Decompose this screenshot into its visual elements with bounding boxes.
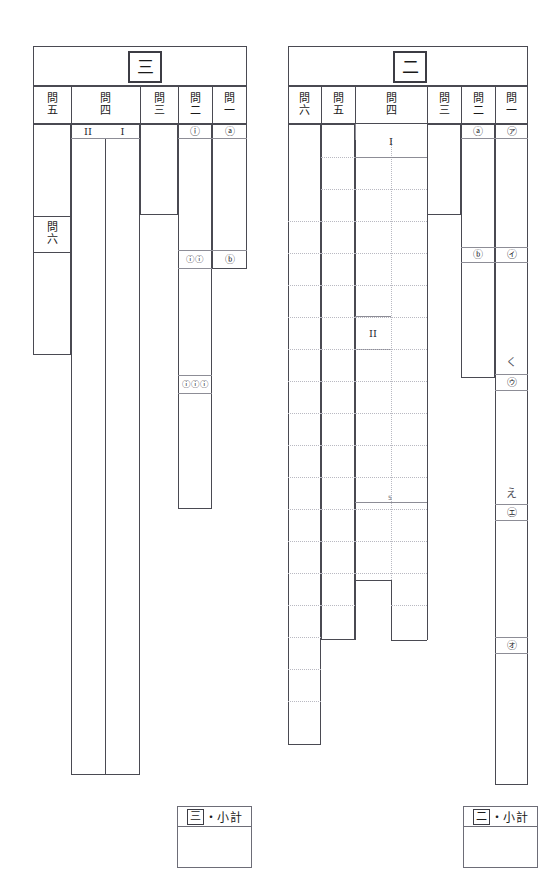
panel-ni-q4-rule-I	[355, 157, 427, 158]
panel-ni-q6-grid-15	[288, 669, 321, 670]
panel-ni-q5-grid-9	[321, 413, 355, 414]
panel-san-subtotal-label: ・小計	[205, 808, 243, 825]
panel-san-roman-II: II	[71, 125, 105, 138]
panel-ni-q6-grid-9	[288, 477, 321, 478]
panel-san-marker-q2-iii: ⓘⓘⓘ	[178, 376, 212, 393]
panel-ni-roman-I: I	[355, 129, 427, 153]
panel-ni-q5-grid-13	[321, 541, 355, 542]
panel-ni-colhead-q6: 問 六	[288, 88, 321, 122]
panel-ni-q4-grid-10	[355, 477, 427, 478]
panel-ni-q6-grid-5	[288, 349, 321, 350]
colhead-char-2: 六	[47, 234, 58, 246]
panel-san-marker-q2-i: ⓘ	[178, 125, 212, 138]
panel-san-marker-q1-a: ⓐ	[212, 125, 247, 138]
panel-ni-q6-grid-6	[288, 381, 321, 382]
panel-ni-q6-grid-12	[288, 573, 321, 574]
panel-ni-subtotal-label: ・小計	[491, 808, 529, 825]
panel-ni-q1-body[interactable]	[495, 124, 528, 785]
panel-ni-colhead-q5: 問 五	[321, 88, 355, 122]
panel-ni-marker-q2-a: ⓐ	[461, 125, 495, 138]
panel-san-roman-I: I	[105, 125, 140, 138]
panel-ni-marker-q2-b: ⓑ	[461, 248, 495, 262]
panel-ni-subtotal-caption: 二 ・小計	[464, 807, 537, 827]
panel-ni-q4-grid-1	[355, 189, 427, 190]
panel-ni-section-label: 二	[393, 51, 427, 83]
panel-san-q1-rule-a	[212, 138, 247, 139]
panel-ni-handwriting-ku: く	[495, 352, 528, 370]
panel-ni-q4-grid-12	[355, 541, 427, 542]
panel-ni-q6-grid-13	[288, 605, 321, 606]
answer-sheet: 三 問 五 問 四 問 三 問 二 問 一 問 六 II I	[0, 0, 559, 883]
panel-san-colhead-q4: 問 四	[71, 88, 140, 122]
panel-ni-q6-grid-3	[288, 285, 321, 286]
panel-ni-q4-left-edge	[355, 124, 356, 640]
panel-san-subtotal-caption: 三 ・小計	[178, 807, 251, 827]
panel-ni-handwriting-e: え	[495, 483, 528, 501]
panel-ni-q5-grid-15	[321, 605, 355, 606]
panel-ni-marker-q1-e: ㋓	[495, 505, 528, 520]
colhead-char-2: 二	[473, 105, 484, 117]
colhead-char-2: 四	[100, 105, 111, 117]
panel-ni-q4-grid-8	[355, 413, 427, 414]
panel-ni-q4-bottom-left	[355, 580, 391, 581]
panel-ni-row-counter-5: 5	[388, 495, 392, 501]
colhead-char-2: 三	[439, 105, 450, 117]
panel-ni-q6-grid-11	[288, 541, 321, 542]
panel-ni-q2-rule-b2	[461, 262, 495, 263]
panel-ni-colhead-q2: 問 二	[461, 88, 495, 122]
panel-ni-colhead-q3: 問 三	[427, 88, 461, 122]
panel-san-colhead-q2: 問 二	[178, 88, 212, 122]
colhead-char-2: 一	[506, 105, 517, 117]
panel-ni-q5-grid-4	[321, 253, 355, 254]
panel-ni-marker-q1-u: ㋒	[495, 375, 528, 390]
panel-ni-q4-grid-4	[355, 285, 427, 286]
panel-ni-subtotal-box[interactable]: 二 ・小計	[463, 806, 538, 868]
panel-ni-q5-grid-14	[321, 573, 355, 574]
panel-san-q2-rule-b2	[178, 268, 212, 269]
panel-ni-marker-q1-i: ㋑	[495, 248, 528, 262]
panel-ni-q6-grid-10	[288, 509, 321, 510]
panel-ni-q4-grid-9	[355, 445, 427, 446]
panel-ni-q4-grid-3	[355, 253, 427, 254]
panel-ni-marker-q1-a: ㋐	[495, 125, 528, 138]
panel-san-q6-cell-top	[33, 216, 71, 217]
panel-ni-colhead-q1: 問 一	[495, 88, 528, 122]
panel-ni-q4-grid-7	[355, 381, 427, 382]
panel-ni-q1-rule-o2	[495, 653, 528, 654]
panel-san-q2-rule-a	[178, 138, 212, 139]
panel-ni-q4-grid-14	[391, 605, 427, 606]
panel-san-colhead-q6: 問 六	[33, 218, 71, 250]
panel-ni-colhead-q4: 問 四	[355, 88, 427, 122]
panel-san-q4-split	[105, 138, 106, 775]
colhead-char-2: 六	[299, 105, 310, 117]
panel-ni-q5-grid-10	[321, 445, 355, 446]
panel-ni-q6-grid-2	[288, 253, 321, 254]
panel-ni-q4-notch-edge	[391, 580, 392, 640]
panel-ni-q6-grid-7	[288, 413, 321, 414]
panel-ni-q1-rule-i2	[495, 262, 528, 263]
colhead-char-2: 五	[47, 105, 58, 117]
panel-ni-q4-grid-2	[355, 221, 427, 222]
colhead-char-2: 一	[224, 105, 235, 117]
panel-ni-q6-body[interactable]	[288, 124, 321, 745]
panel-ni-q5-body[interactable]	[321, 124, 355, 640]
panel-san-q2-body[interactable]	[178, 124, 212, 509]
panel-san-colhead-q1: 問 一	[212, 88, 247, 122]
panel-ni-q1-rule-a	[495, 138, 528, 139]
panel-san-q3-body[interactable]	[140, 124, 178, 215]
colhead-char-2: 四	[386, 105, 397, 117]
panel-ni-q4-grid-13	[355, 573, 427, 574]
panel-ni-q3-body[interactable]	[427, 124, 461, 215]
panel-ni-q4-bottom-right	[391, 640, 427, 641]
panel-ni-q2-rule-a	[461, 138, 495, 139]
panel-ni-q6-grid-4	[288, 317, 321, 318]
panel-san-subtotal-section: 三	[187, 809, 204, 825]
panel-ni-roman-II: II	[355, 320, 391, 346]
panel-san-subtotal-box[interactable]: 三 ・小計	[177, 806, 252, 868]
colhead-char-2: 三	[154, 105, 165, 117]
panel-san-q1-body[interactable]	[212, 124, 247, 269]
panel-ni-q5-grid-8	[321, 381, 355, 382]
panel-ni-q6-grid-16	[288, 701, 321, 702]
panel-ni-q4-rule-II-top	[355, 316, 391, 317]
panel-ni-subtotal-section: 二	[473, 809, 490, 825]
